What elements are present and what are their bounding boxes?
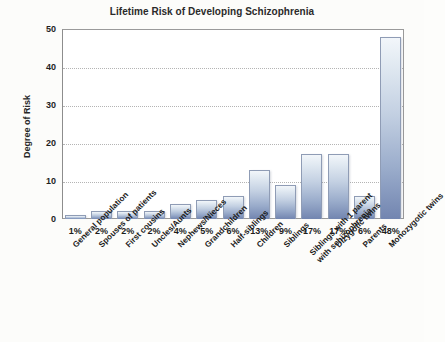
bar-slot	[354, 29, 375, 219]
y-tick-label: 20	[46, 138, 56, 148]
bar-slot	[117, 29, 138, 219]
chart-title: Lifetime Risk of Developing Schizophreni…	[0, 6, 424, 17]
y-tick-label: 10	[46, 176, 56, 186]
y-tick-label: 40	[46, 62, 56, 72]
y-tick-label: 50	[46, 24, 56, 34]
bar-slot	[249, 29, 270, 219]
bar-slot	[196, 29, 217, 219]
bar-slot	[91, 29, 112, 219]
bar[interactable]	[275, 185, 296, 219]
y-axis-tick-labels: 01020304050	[0, 0, 62, 342]
bar-slot	[170, 29, 191, 219]
bar[interactable]	[301, 154, 322, 219]
bar[interactable]	[328, 154, 349, 219]
bar-slot	[223, 29, 244, 219]
bar-slot	[275, 29, 296, 219]
bar[interactable]	[380, 37, 401, 219]
bar-slot	[328, 29, 349, 219]
y-tick-label: 0	[51, 214, 56, 224]
bar-slot	[301, 29, 322, 219]
x-axis-category-labels: General populationSpouses of patientsFir…	[62, 243, 424, 342]
bar[interactable]	[65, 215, 86, 219]
y-tick-label: 30	[46, 100, 56, 110]
bars-layer	[62, 29, 404, 219]
bar-slot	[65, 29, 86, 219]
bar-slot	[380, 29, 401, 219]
